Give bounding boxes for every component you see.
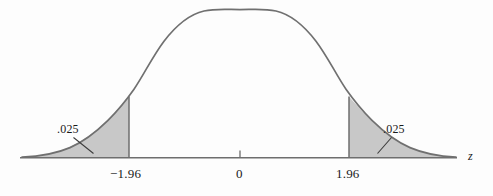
z-axis-label: z [468,150,473,162]
normal-distribution-figure: .025 .025 −1.96 0 1.96 z [0,0,493,196]
tick-label-negative-critical: −1.96 [110,167,141,180]
tick-label-positive-critical: 1.96 [336,167,360,180]
distribution-plot [0,0,493,196]
right-tail-area-label: .025 [383,123,405,135]
left-tail-area-label: .025 [57,123,79,135]
tick-label-zero: 0 [236,167,243,180]
